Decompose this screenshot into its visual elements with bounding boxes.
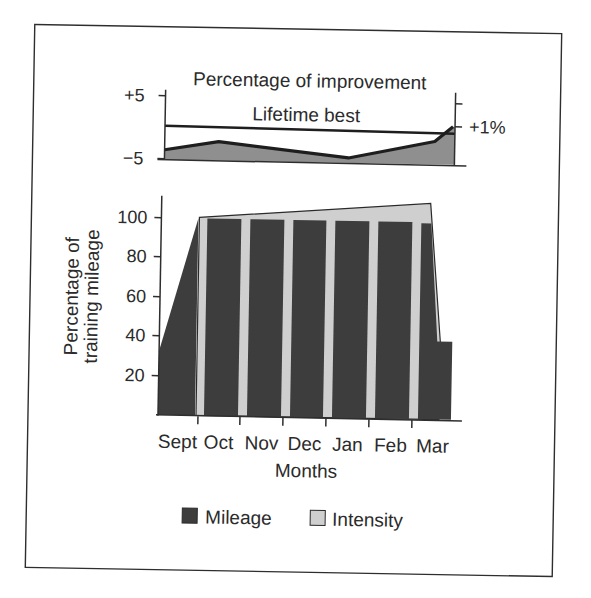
ytick-minus5-label: −5 <box>123 148 144 168</box>
ytick-60-label: 60 <box>126 286 146 306</box>
lifetime-best-line <box>165 126 455 134</box>
ytick-100-label: 100 <box>117 207 147 228</box>
x-axis-title: Months <box>275 460 338 482</box>
dark-square-swatch-icon <box>182 508 197 523</box>
light-square-swatch-icon <box>310 510 325 525</box>
improvement-chart-title: Percentage of improvement <box>193 68 427 93</box>
mileage-col-mar <box>418 223 454 420</box>
chart-figure: Percentage of improvement Lifetime best … <box>0 0 591 598</box>
month-label-oct: Oct <box>204 431 235 453</box>
mileage-sept-ramp <box>158 218 198 416</box>
month-label-feb: Feb <box>374 434 407 456</box>
mileage-col-dec <box>290 220 326 418</box>
mileage-y-axis-title-line2: training mileage <box>80 229 103 363</box>
month-label-dec: Dec <box>287 433 321 455</box>
plus-one-percent-label: +1% <box>469 117 506 138</box>
month-label-jan: Jan <box>332 434 363 456</box>
ytick-80-label: 80 <box>127 246 147 266</box>
legend-label-intensity: Intensity <box>332 509 404 531</box>
mileage-col-nov <box>247 219 284 417</box>
legend-item-mileage: Mileage <box>182 506 272 529</box>
legend: Mileage Intensity <box>182 506 404 531</box>
mileage-col-oct <box>204 218 241 416</box>
mileage-col-feb <box>375 221 412 419</box>
ytick-20-label: 20 <box>124 365 144 385</box>
lifetime-best-label: Lifetime best <box>252 103 361 126</box>
ytick-plus5-label: +5 <box>124 85 145 105</box>
improvement-chart: Percentage of improvement Lifetime best … <box>123 67 507 175</box>
legend-label-mileage: Mileage <box>205 507 272 529</box>
mileage-chart: 100 80 60 40 20 Percentage of training m… <box>58 194 466 484</box>
mileage-col-jan <box>332 221 369 419</box>
ytick-40-label: 40 <box>125 325 145 345</box>
month-label-sept: Sept <box>158 431 198 453</box>
month-label-nov: Nov <box>244 432 279 454</box>
month-label-mar: Mar <box>416 435 450 457</box>
legend-item-intensity: Intensity <box>310 508 404 531</box>
